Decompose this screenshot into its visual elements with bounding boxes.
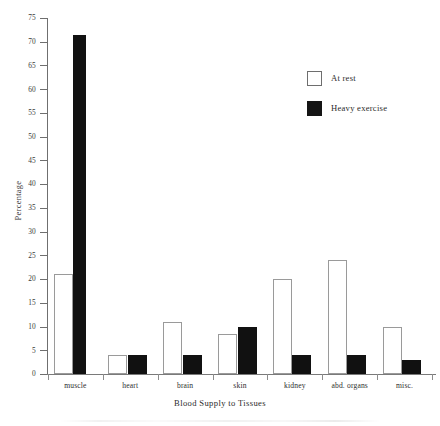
y-axis-tick-label: 20 <box>12 275 36 282</box>
y-axis-tick-label: 75 <box>12 14 36 21</box>
chart-legend: At rest Heavy exercise <box>307 70 427 130</box>
x-axis-title: Blood Supply to Tissues <box>0 398 440 408</box>
x-axis-tick <box>48 374 49 380</box>
y-axis-tick <box>40 232 47 233</box>
x-axis-tick <box>322 374 323 380</box>
y-axis-tick-label: 25 <box>12 252 36 259</box>
y-axis-tick <box>40 65 47 66</box>
x-axis-tick <box>377 374 378 380</box>
bar-at-rest-muscle <box>54 274 73 374</box>
y-axis-tick <box>40 327 47 328</box>
bar-at-rest-abdorgans <box>328 260 347 374</box>
y-axis-tick <box>40 42 47 43</box>
bar-heavy-exercise-brain <box>183 355 202 374</box>
y-axis-tick-label: 0 <box>12 370 36 377</box>
y-axis-tick-label: 5 <box>12 347 36 354</box>
bar-heavy-exercise-heart <box>128 355 147 374</box>
y-axis-tick <box>40 137 47 138</box>
y-axis-tick-label: 65 <box>12 62 36 69</box>
y-axis-tick-label: 45 <box>12 157 36 164</box>
x-axis-tick <box>103 374 104 380</box>
x-axis-tick <box>158 374 159 380</box>
bar-chart: Percentage 05101520253035404550556065707… <box>0 0 440 426</box>
bar-at-rest-brain <box>163 322 182 374</box>
x-axis-tick <box>213 374 214 380</box>
bar-at-rest-misc <box>383 327 402 374</box>
scan-artifact <box>60 420 380 422</box>
bar-at-rest-kidney <box>273 279 292 374</box>
y-axis-tick-label: 70 <box>12 38 36 45</box>
y-axis-tick-label: 35 <box>12 204 36 211</box>
bar-at-rest-skin <box>218 334 237 374</box>
y-axis-tick-label: 55 <box>12 109 36 116</box>
y-axis-tick-label: 40 <box>12 180 36 187</box>
bar-heavy-exercise-kidney <box>292 355 311 374</box>
y-axis-tick <box>40 208 47 209</box>
bar-heavy-exercise-abdorgans <box>347 355 366 374</box>
legend-item-label: Heavy exercise <box>331 103 387 113</box>
legend-item-heavy-exercise: Heavy exercise <box>307 100 427 116</box>
x-axis-tick-label: misc. <box>371 381 439 390</box>
y-axis-tick-label: 50 <box>12 133 36 140</box>
x-axis-tick <box>432 374 433 380</box>
y-axis-tick <box>40 89 47 90</box>
y-axis-tick <box>40 374 47 375</box>
bar-heavy-exercise-skin <box>238 327 257 374</box>
y-axis-tick-label: 30 <box>12 228 36 235</box>
white-square-icon <box>307 71 322 86</box>
black-square-icon <box>307 101 322 116</box>
y-axis-tick <box>40 279 47 280</box>
legend-item-label: At rest <box>331 73 356 83</box>
y-axis-tick-label: 15 <box>12 299 36 306</box>
y-axis-tick <box>40 303 47 304</box>
y-axis-tick <box>40 184 47 185</box>
bar-heavy-exercise-muscle <box>73 35 86 374</box>
y-axis-tick <box>40 255 47 256</box>
legend-item-at-rest: At rest <box>307 70 427 86</box>
y-axis-tick-label: 10 <box>12 323 36 330</box>
bar-heavy-exercise-misc <box>402 360 421 374</box>
y-axis-tick <box>40 18 47 19</box>
y-axis-tick <box>40 160 47 161</box>
y-axis-tick-label: 60 <box>12 86 36 93</box>
y-axis-tick <box>40 350 47 351</box>
y-axis-tick <box>40 113 47 114</box>
x-axis-tick <box>267 374 268 380</box>
bar-at-rest-heart <box>108 355 127 374</box>
